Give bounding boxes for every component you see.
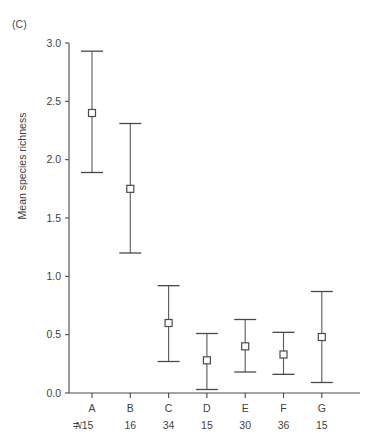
error-bar-g — [311, 292, 333, 383]
sample-size-value: 30 — [239, 419, 251, 431]
mean-marker — [318, 334, 325, 341]
x-category-label: G — [318, 402, 326, 414]
y-tick-label: 0.0 — [46, 387, 61, 399]
figure-panel-c: (C) Mean species richness 0.00.51.01.52.… — [0, 0, 367, 447]
y-tick-label: 0.5 — [46, 328, 61, 340]
y-tick-label: 2.0 — [46, 153, 61, 165]
error-bar-a — [81, 51, 103, 172]
error-bar-d — [196, 334, 218, 390]
mean-marker — [89, 110, 96, 117]
plot-area: 0.00.51.01.52.02.53.0 ABCDEFG N= 1516341… — [0, 0, 367, 447]
x-axis — [69, 393, 360, 398]
y-axis: 0.00.51.01.52.02.53.0 — [46, 37, 69, 399]
error-bar-c — [158, 286, 180, 362]
sample-size-equals: = 15 — [73, 419, 94, 431]
x-category-label: D — [203, 402, 211, 414]
mean-marker — [280, 351, 287, 358]
sample-size-value: 34 — [163, 419, 175, 431]
mean-marker — [242, 343, 249, 350]
x-category-label: C — [165, 402, 173, 414]
data-series-error-bars — [81, 51, 333, 389]
x-category-label: F — [280, 402, 286, 414]
sample-size-value: 36 — [278, 419, 290, 431]
sample-size-value: 15 — [201, 419, 213, 431]
mean-marker — [127, 185, 134, 192]
x-category-labels: ABCDEFG — [88, 402, 325, 414]
error-bar-b — [119, 124, 141, 254]
error-bar-e — [234, 320, 256, 373]
mean-marker — [165, 320, 172, 327]
mean-marker — [203, 357, 210, 364]
y-tick-label: 2.5 — [46, 95, 61, 107]
x-category-label: E — [242, 402, 249, 414]
y-tick-label: 1.5 — [46, 212, 61, 224]
y-tick-label: 3.0 — [46, 37, 61, 49]
y-tick-label: 1.0 — [46, 270, 61, 282]
sample-size-value: 16 — [124, 419, 136, 431]
x-category-label: B — [127, 402, 134, 414]
sample-size-labels: N= 15163415303615 — [73, 419, 328, 431]
x-category-label: A — [88, 402, 95, 414]
sample-size-value: 15 — [316, 419, 328, 431]
error-bar-f — [273, 332, 295, 374]
